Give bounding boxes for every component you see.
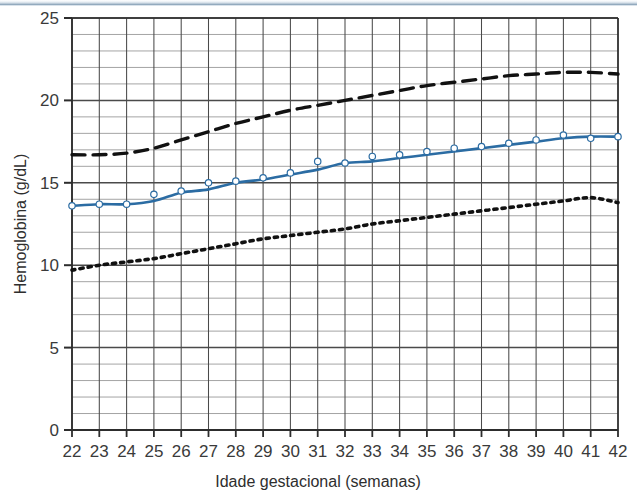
x-tick-label: 33 — [363, 442, 382, 461]
x-tick-label: 22 — [63, 442, 82, 461]
y-axis-tick-marks — [64, 18, 72, 430]
chart-canvas: 0510152025 22232425262728293031323334353… — [0, 0, 637, 497]
data-point-marker — [260, 175, 266, 181]
data-point-marker — [205, 180, 211, 186]
data-point-marker — [478, 143, 484, 149]
x-axis-tick-labels: 2223242526272829303132333435363738394041… — [63, 442, 628, 461]
x-tick-label: 42 — [609, 442, 628, 461]
hemoglobin-gestational-age-chart: 0510152025 22232425262728293031323334353… — [0, 0, 637, 497]
data-point-marker — [178, 188, 184, 194]
data-point-marker — [506, 140, 512, 146]
y-tick-label: 20 — [40, 91, 59, 110]
data-point-marker — [615, 133, 621, 139]
data-point-marker — [369, 153, 375, 159]
x-tick-label: 38 — [499, 442, 518, 461]
x-tick-label: 27 — [199, 442, 218, 461]
x-axis-tick-marks — [72, 430, 618, 437]
y-tick-label: 5 — [50, 339, 59, 358]
y-tick-label: 0 — [50, 421, 59, 440]
x-tick-label: 30 — [281, 442, 300, 461]
data-point-marker — [123, 201, 129, 207]
data-point-marker — [151, 191, 157, 197]
x-tick-label: 24 — [117, 442, 136, 461]
x-tick-label: 25 — [144, 442, 163, 461]
x-tick-label: 26 — [172, 442, 191, 461]
data-point-marker — [233, 178, 239, 184]
y-axis-tick-labels: 0510152025 — [40, 9, 59, 440]
y-tick-label: 25 — [40, 9, 59, 28]
data-point-marker — [315, 158, 321, 164]
data-point-marker — [396, 152, 402, 158]
data-point-marker — [560, 132, 566, 138]
y-tick-label: 10 — [40, 256, 59, 275]
data-point-marker — [533, 137, 539, 143]
data-point-marker — [451, 145, 457, 151]
x-tick-label: 39 — [527, 442, 546, 461]
data-point-marker — [69, 203, 75, 209]
x-tick-label: 34 — [390, 442, 409, 461]
x-tick-label: 36 — [445, 442, 464, 461]
x-tick-label: 29 — [254, 442, 273, 461]
y-axis-title: Hemoglobina (g/dL) — [12, 154, 29, 295]
data-point-marker — [96, 201, 102, 207]
x-tick-label: 23 — [90, 442, 109, 461]
x-tick-label: 32 — [336, 442, 355, 461]
x-tick-label: 31 — [308, 442, 327, 461]
data-point-marker — [287, 170, 293, 176]
x-tick-label: 37 — [472, 442, 491, 461]
x-axis-title: Idade gestacional (semanas) — [215, 473, 420, 490]
data-point-marker — [588, 135, 594, 141]
x-tick-label: 41 — [581, 442, 600, 461]
y-tick-label: 15 — [40, 174, 59, 193]
data-point-marker — [342, 160, 348, 166]
x-tick-label: 35 — [417, 442, 436, 461]
x-tick-label: 40 — [554, 442, 573, 461]
minor-vertical-gridlines — [72, 18, 618, 430]
x-tick-label: 28 — [226, 442, 245, 461]
data-point-marker — [424, 148, 430, 154]
